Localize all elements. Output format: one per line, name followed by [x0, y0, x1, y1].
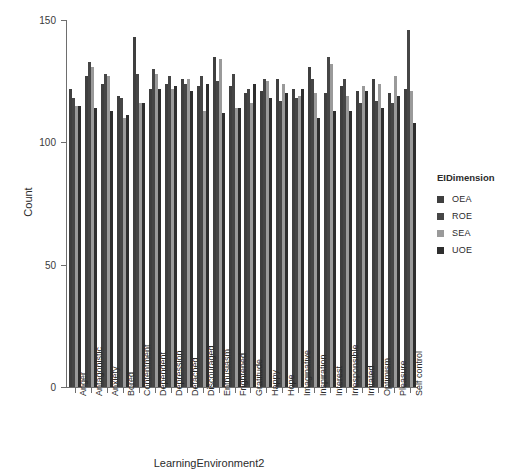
x-axis-tick-label: Optimism [382, 358, 392, 396]
bar [301, 89, 304, 387]
bar-group [306, 20, 322, 387]
y-axis-tick [61, 20, 66, 21]
x-axis-tick-label: Enthusiasm [222, 349, 232, 396]
x-axis-tick [139, 388, 140, 393]
x-axis-tick-label: Detached [190, 357, 200, 396]
bar-group [83, 20, 99, 387]
x-axis-tick [203, 388, 204, 393]
bar [206, 84, 209, 387]
legend-swatch-icon [437, 213, 444, 220]
bar [333, 111, 336, 387]
bar-group [370, 20, 386, 387]
bar [238, 108, 241, 387]
bar-group [338, 20, 354, 387]
bar-group [131, 20, 147, 387]
x-axis-tick [187, 388, 188, 393]
bar [158, 89, 161, 387]
x-axis-tick [219, 388, 220, 393]
y-axis-tick-label: 0 [30, 382, 56, 393]
legend-title: EIDimension [437, 172, 515, 183]
x-axis-tick [394, 388, 395, 393]
y-axis-tick-label: 150 [30, 15, 56, 26]
legend-items: OEAROESEAUOE [437, 192, 515, 257]
x-axis-tick-label: Hope [286, 374, 296, 396]
x-axis-tick [410, 388, 411, 393]
y-axis-tick-label: 100 [30, 137, 56, 148]
bar-group [322, 20, 338, 387]
x-axis-tick [75, 388, 76, 393]
x-axis-tick [250, 388, 251, 393]
x-axis-tick [314, 388, 315, 393]
x-axis-tick-label: Irresponsible [350, 344, 360, 396]
bar-group [211, 20, 227, 387]
x-axis-tick-label: Pleasure [398, 360, 408, 396]
x-axis-tick [378, 388, 379, 393]
y-axis-tick [61, 142, 66, 143]
bar-group [163, 20, 179, 387]
bar [269, 98, 272, 387]
legend-swatch-icon [437, 230, 444, 237]
x-axis-title: LearningEnvironment2 [0, 457, 418, 469]
bar [94, 108, 97, 387]
x-axis-tick [123, 388, 124, 393]
legend-item[interactable]: ROE [437, 209, 515, 223]
y-axis-title: Count [22, 187, 34, 216]
x-axis-tick-label: Anger [78, 372, 88, 396]
bar [381, 108, 384, 387]
legend-item-label: UOE [452, 245, 472, 255]
bar [413, 123, 416, 387]
x-axis-tick [362, 388, 363, 393]
x-axis-tick [235, 388, 236, 393]
x-axis-tick [330, 388, 331, 393]
bar-group [354, 20, 370, 387]
chart-container: 050100150 Count AngerAntagonisticAnxiety… [0, 0, 518, 475]
x-axis-tick-label: Inspiration [318, 354, 328, 396]
legend-swatch-icon [437, 247, 444, 254]
bar-group [99, 20, 115, 387]
bar-group [290, 20, 306, 387]
bar [253, 84, 256, 387]
legend-item[interactable]: OEA [437, 192, 515, 206]
x-axis-tick [266, 388, 267, 393]
x-axis-tick-label: Bored [126, 372, 136, 396]
bar [78, 106, 81, 387]
bar [110, 111, 113, 387]
bar-group [386, 20, 402, 387]
legend: EIDimension OEAROESEAUOE [437, 172, 515, 260]
x-axis-tick [171, 388, 172, 393]
bar-group [147, 20, 163, 387]
legend-item-label: OEA [452, 194, 472, 204]
legend-swatch-icon [437, 196, 444, 203]
x-axis-tick-label: Dependent [158, 352, 168, 396]
bar-group [227, 20, 243, 387]
bar-group [402, 20, 418, 387]
bar-group [195, 20, 211, 387]
legend-item[interactable]: SEA [437, 226, 515, 240]
legend-item[interactable]: UOE [437, 243, 515, 257]
x-axis-tick [346, 388, 347, 393]
x-axis-tick-label: Irritated [366, 365, 376, 396]
x-axis-tick [282, 388, 283, 393]
bar [222, 113, 225, 387]
x-axis-tick-label: Antagonistic [94, 347, 104, 396]
bar [174, 86, 177, 387]
x-axis-tick [155, 388, 156, 393]
x-axis-tick-label: Depression [174, 350, 184, 396]
x-axis-tick-label: Frightened [238, 353, 248, 396]
x-axis-tick-label: Contentment [142, 344, 152, 396]
x-axis-tick-label: Happy [270, 370, 280, 396]
bar [365, 91, 368, 387]
x-axis-tick-label: Interest [334, 366, 344, 396]
bar-group [115, 20, 131, 387]
x-axis-tick [107, 388, 108, 393]
bar-group [258, 20, 274, 387]
legend-item-label: ROE [452, 211, 472, 221]
bar-group [67, 20, 83, 387]
legend-item-label: SEA [452, 228, 471, 238]
x-axis-tick-label: Gratitude [254, 359, 264, 396]
y-axis-tick [61, 387, 66, 388]
plot-area [67, 20, 418, 387]
y-axis-tick [61, 265, 66, 266]
x-axis-tick-label: Discouraged [206, 345, 216, 396]
x-axis-tick-label: Imaginative [302, 350, 312, 396]
